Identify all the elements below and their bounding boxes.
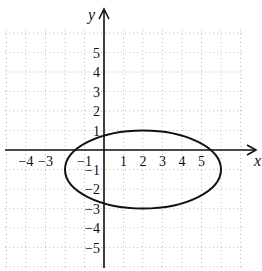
y-tick-label: −5	[85, 241, 100, 256]
y-tick-label: −4	[85, 221, 100, 236]
y-axis-label: y	[86, 6, 96, 24]
x-tick-labels: −4−3−112345	[19, 154, 205, 169]
y-tick-label: −3	[85, 202, 100, 217]
y-tick-label: −1	[85, 163, 100, 178]
x-tick-label: 3	[159, 154, 166, 169]
ellipse-graph: y x −4−3−112345 54321−1−2−3−4−5	[0, 0, 262, 271]
x-tick-label: 1	[120, 154, 127, 169]
x-tick-label: 4	[179, 154, 186, 169]
x-tick-label: 5	[198, 154, 205, 169]
x-tick-label: 2	[140, 154, 147, 169]
x-tick-label: −3	[38, 154, 53, 169]
x-tick-label: −4	[19, 154, 34, 169]
y-tick-label: 5	[93, 46, 100, 61]
axes	[5, 9, 256, 268]
x-axis-label: x	[253, 152, 261, 169]
y-tick-label: 2	[93, 104, 100, 119]
y-tick-label: 4	[93, 65, 100, 80]
y-tick-label: 3	[93, 85, 100, 100]
y-tick-label: −2	[85, 182, 100, 197]
